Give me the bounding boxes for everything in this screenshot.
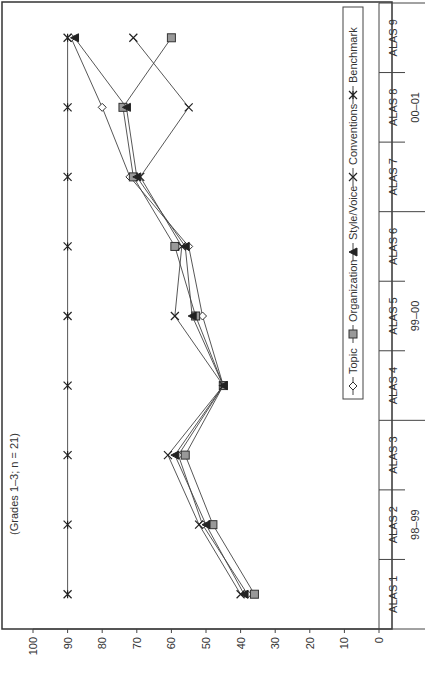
y-tick-label: 30 [269, 637, 281, 649]
legend-label: Conventions [347, 103, 359, 165]
legend-label: Organization [347, 260, 359, 322]
asterisk-marker [64, 173, 72, 181]
square-marker [250, 590, 258, 598]
category-label: ALAS 2 [387, 506, 399, 543]
y-tick-label: 10 [338, 637, 350, 649]
square-marker [171, 242, 179, 250]
category-label: ALAS 1 [387, 576, 399, 613]
asterisk-marker [64, 521, 72, 529]
series-group [64, 34, 259, 598]
category-label: ALAS 4 [387, 367, 399, 404]
legend-label: Style/Voice [347, 186, 359, 240]
category-group-label: 00–01 [409, 92, 421, 123]
asterisk-marker [64, 590, 72, 598]
triangle-marker [171, 451, 179, 459]
square-marker [181, 451, 189, 459]
y-tick-label: 20 [304, 637, 316, 649]
category-group-label: 98–99 [409, 509, 421, 540]
legend-label: Benchmark [347, 27, 359, 83]
asterisk-marker [64, 242, 72, 250]
series-topic [67, 34, 251, 598]
asterisk-marker [64, 103, 72, 111]
series-line [71, 38, 247, 594]
category-label: ALAS 6 [387, 228, 399, 265]
series-line [75, 38, 245, 594]
line-chart: (Grades 1–3; n = 21) 0102030405060708090… [0, 0, 434, 689]
series-conventions [129, 34, 244, 598]
diamond-marker [98, 103, 106, 111]
y-tick-label: 50 [200, 637, 212, 649]
x-marker [185, 103, 193, 111]
square-marker [167, 34, 175, 42]
y-tick-label: 100 [27, 637, 39, 655]
category-label: ALAS 9 [387, 19, 399, 56]
y-tick-label: 0 [373, 637, 385, 643]
legend-label: Topic [347, 348, 359, 374]
category-group-label: 99–00 [409, 301, 421, 332]
legend: TopicOrganizationStyle/VoiceConventionsB… [343, 7, 363, 399]
asterisk-marker [64, 382, 72, 390]
asterisk-marker [64, 451, 72, 459]
chart-title: (Grades 1–3; n = 21) [8, 433, 20, 535]
series-style-voice [71, 34, 249, 598]
category-label: ALAS 8 [387, 89, 399, 126]
series-benchmark [64, 34, 72, 598]
square-marker [349, 330, 357, 338]
y-axis: 0102030405060708090100 [27, 629, 385, 655]
y-tick-label: 60 [165, 637, 177, 649]
x-axis: ALAS 1ALAS 2ALAS 3ALAS 4ALAS 5ALAS 6ALAS… [379, 3, 425, 629]
rotated-chart-container: (Grades 1–3; n = 21) 0102030405060708090… [0, 0, 434, 689]
asterisk-marker [64, 312, 72, 320]
category-label: ALAS 7 [387, 158, 399, 195]
y-tick-label: 70 [131, 637, 143, 649]
y-tick-label: 90 [62, 637, 74, 649]
y-tick-label: 40 [235, 637, 247, 649]
category-label: ALAS 3 [387, 436, 399, 473]
y-tick-label: 80 [96, 637, 108, 649]
x-marker [129, 34, 137, 42]
series-line [133, 38, 240, 594]
category-label: ALAS 5 [387, 297, 399, 334]
